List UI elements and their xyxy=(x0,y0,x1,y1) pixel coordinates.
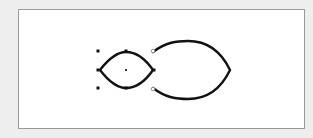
center-point xyxy=(125,69,127,71)
resize-handle-right[interactable] xyxy=(153,69,156,72)
resize-handle-left[interactable] xyxy=(97,69,100,72)
resize-handle-top-left[interactable] xyxy=(97,50,100,53)
diagram-svg xyxy=(0,0,313,138)
connection-point-bottom[interactable] xyxy=(151,87,155,91)
connection-point-top[interactable] xyxy=(151,49,155,53)
resize-handle-bottom-left[interactable] xyxy=(97,87,100,90)
large-lens-shape[interactable] xyxy=(153,41,230,99)
resize-handle-top[interactable] xyxy=(125,50,128,53)
resize-handle-bottom[interactable] xyxy=(125,87,128,90)
